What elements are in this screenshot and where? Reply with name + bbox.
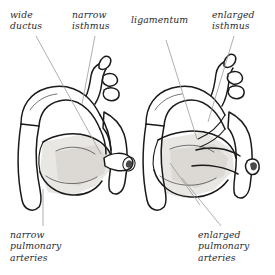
left-aortic-arch-inner [39,100,100,129]
label-enlarged-pulmonary-arteries: enlarged pulmonary arteries [198,229,274,263]
right-contour-c [155,94,182,110]
label-wide-ductus: wide ductus [10,9,72,32]
leader-lines [36,36,234,226]
right-brachiocephalic-branch [224,54,236,67]
left-brachiocephalic-branch [99,56,111,69]
right-carotid-branch [227,72,242,85]
left-contour-c [30,94,57,110]
label-enlarged-isthmus: enlarged isthmus [212,9,270,32]
label-ligamentum: ligamentum [131,14,201,25]
label-narrow-isthmus: narrow isthmus [72,9,134,32]
label-narrow-pulmonary-arteries: narrow pulmonary arteries [10,229,90,263]
right-figure [143,54,259,210]
left-descending-aorta [18,124,41,210]
left-subclavian-branch [103,88,119,101]
leader-ligamentum [166,40,197,139]
left-isthmus [86,64,99,96]
left-carotid-branch [102,74,117,87]
right-subclavian-branch [228,86,244,99]
left-figure [18,56,137,210]
right-aortic-arch-inner [164,100,225,129]
anatomy-figure: .ink { fill: none; stroke: #1a1a1a; stro… [0,0,275,275]
